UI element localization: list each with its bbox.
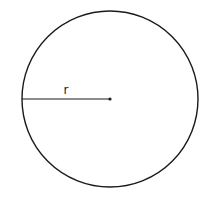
center-point: [108, 97, 111, 100]
circle-diagram: r: [0, 0, 206, 201]
radius-label: r: [64, 83, 69, 97]
